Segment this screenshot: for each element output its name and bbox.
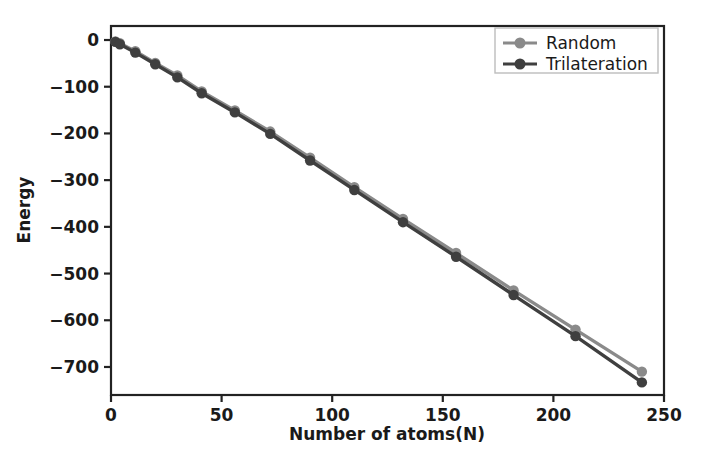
- data-point: [305, 155, 315, 165]
- legend-label-trilateration: Trilateration: [545, 54, 648, 74]
- data-point: [398, 217, 408, 227]
- y-ticklabel--300: −300: [49, 170, 99, 190]
- x-ticklabel-100: 100: [314, 405, 350, 425]
- chart-legend: Random Trilateration: [495, 28, 658, 74]
- data-point: [150, 59, 160, 69]
- legend-marker-trilateration: [515, 59, 526, 70]
- x-ticklabel-200: 200: [536, 405, 572, 425]
- data-point: [130, 47, 140, 57]
- energy-vs-atoms-chart: 050100150200250 0−100−200−300−400−500−60…: [0, 0, 705, 465]
- y-ticklabel-0: 0: [87, 30, 99, 50]
- data-point: [570, 331, 580, 341]
- data-point: [115, 39, 125, 49]
- data-point: [230, 107, 240, 117]
- x-ticklabel-150: 150: [425, 405, 461, 425]
- data-point: [349, 185, 359, 195]
- y-ticklabel--100: −100: [49, 77, 99, 97]
- legend-label-random: Random: [546, 33, 616, 53]
- y-ticklabel--400: −400: [49, 217, 99, 237]
- y-ticklabel--200: −200: [49, 123, 99, 143]
- data-point: [265, 129, 275, 139]
- y-axis-title: Energy: [14, 177, 34, 244]
- data-point: [196, 88, 206, 98]
- y-ticklabel--700: −700: [49, 357, 99, 377]
- chart-figure: 050100150200250 0−100−200−300−400−500−60…: [0, 0, 705, 465]
- legend-marker-random: [515, 38, 526, 49]
- x-ticklabel-250: 250: [646, 405, 682, 425]
- data-point: [508, 290, 518, 300]
- x-ticklabel-0: 0: [105, 405, 117, 425]
- y-ticklabel--500: −500: [49, 264, 99, 284]
- data-point: [451, 252, 461, 262]
- x-axis-title: Number of atoms(N): [289, 424, 485, 444]
- data-point: [172, 72, 182, 82]
- data-point: [637, 377, 647, 387]
- x-ticklabel-50: 50: [210, 405, 234, 425]
- data-point: [637, 366, 647, 376]
- y-ticklabel--600: −600: [49, 310, 99, 330]
